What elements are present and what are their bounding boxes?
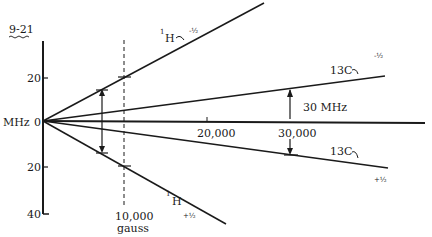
figure-label: 9-21 xyxy=(9,23,34,36)
y-tick-label: 0 xyxy=(34,116,41,129)
h-upper-line xyxy=(43,3,264,121)
y-tick-label: 20 xyxy=(27,72,41,85)
c-upper-line xyxy=(43,76,385,121)
x-tick-label: 30,000 xyxy=(278,127,317,140)
x-axis xyxy=(43,121,425,123)
c-upper-nucleus: 13C xyxy=(330,64,352,77)
c-lower-spin: +½ xyxy=(374,176,387,184)
y-tick-label: 40 xyxy=(27,208,41,221)
c-lower-nucleus: 13C xyxy=(330,145,352,158)
h-upper-spin: -½ xyxy=(189,27,198,35)
h-upper-leader xyxy=(176,36,184,40)
h-lower-spin: +½ xyxy=(183,212,196,220)
x-tick-label: 20,000 xyxy=(197,127,236,140)
arrow-down-icon xyxy=(99,146,105,153)
h-upper-mass: 1 xyxy=(160,28,164,36)
gap-label: 30 MHz xyxy=(303,101,347,114)
c-upper-spin: -½ xyxy=(374,52,383,60)
h-lower-mass: 1 xyxy=(166,190,170,198)
c-lower-leader xyxy=(352,152,358,158)
y-axis-label: MHz xyxy=(3,116,30,129)
figure-label-underline xyxy=(9,36,29,38)
energy-level-diagram: 9-21 20 MHz 0 20 40 20,000 30,000 10,000… xyxy=(0,0,432,237)
field-marker-unit: gauss xyxy=(117,222,149,235)
y-tick-label: 20 xyxy=(27,161,41,174)
c-upper-leader xyxy=(352,70,358,75)
h-upper-symbol: H xyxy=(165,32,175,45)
h-lower-symbol: H xyxy=(172,195,182,208)
